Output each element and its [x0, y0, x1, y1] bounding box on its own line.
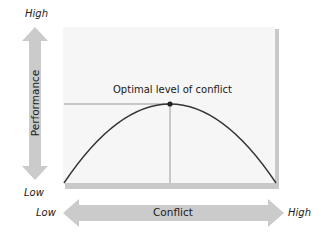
y-axis-title: Performance: [29, 70, 41, 137]
conflict-performance-diagram: [0, 0, 321, 235]
x-axis-low-label: Low: [36, 207, 56, 218]
y-axis-low-label: Low: [24, 187, 44, 198]
y-axis-high-label: High: [25, 8, 48, 19]
x-axis-title: Conflict: [153, 206, 193, 218]
optimal-point: [167, 101, 172, 106]
optimal-level-label: Optimal level of conflict: [113, 84, 232, 95]
x-axis-high-label: High: [288, 207, 311, 218]
